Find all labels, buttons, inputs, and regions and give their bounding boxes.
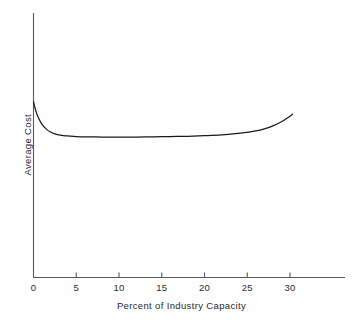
- chart-plot-area: [0, 0, 363, 328]
- x-tick-label: 30: [275, 282, 305, 293]
- x-tick-label: 5: [61, 282, 91, 293]
- y-axis-title: Average Cost: [22, 114, 33, 204]
- x-axis-title: Percent of Industry Capacity: [0, 300, 363, 311]
- x-tick-label: 0: [19, 282, 49, 293]
- x-tick-label: 15: [147, 282, 177, 293]
- x-tick-label: 10: [104, 282, 134, 293]
- x-tick-label: 20: [190, 282, 220, 293]
- chart-container: 051015202530 Percent of Industry Capacit…: [0, 0, 363, 328]
- x-tick-label: 25: [232, 282, 262, 293]
- chart-background: [0, 0, 363, 328]
